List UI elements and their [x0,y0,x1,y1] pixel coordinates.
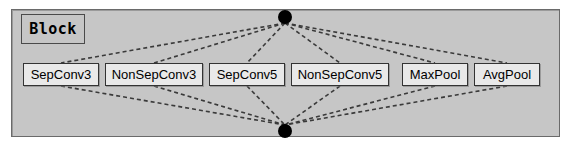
op-box-label: NonSepConv5 [298,67,383,82]
operation-box-row: SepConv3NonSepConv3SepConv5NonSepConv5Ma… [0,63,573,86]
op-box-nonsepconv3[interactable]: NonSepConv3 [105,63,203,86]
block-diagram: Block SepConv3NonSepConv3SepConv5NonSepC… [0,0,573,146]
op-box-avgpool[interactable]: AvgPool [474,63,540,86]
op-box-label: MaxPool [410,67,461,82]
op-box-nonsepconv5[interactable]: NonSepConv5 [291,63,389,86]
op-box-sepconv3[interactable]: SepConv3 [23,63,99,86]
op-box-label: SepConv5 [217,67,278,82]
op-box-label: SepConv3 [31,67,92,82]
op-box-sepconv5[interactable]: SepConv5 [209,63,285,86]
block-title-label: Block [21,14,85,44]
op-box-label: NonSepConv3 [112,67,197,82]
op-box-maxpool[interactable]: MaxPool [402,63,468,86]
op-box-label: AvgPool [483,67,531,82]
